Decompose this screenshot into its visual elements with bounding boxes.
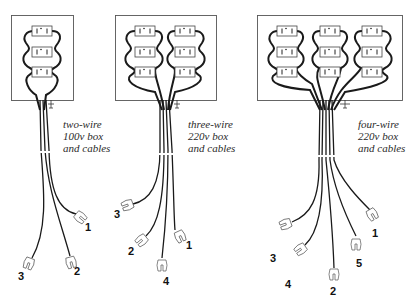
plug-icon [351,239,361,250]
two-wire-box [12,16,74,111]
caption-line: three-wire [188,118,235,130]
plug-icon [157,260,167,271]
cable-label: 1 [186,240,192,251]
four-wire-caption: four-wire 220v box and cables [358,118,405,154]
caption-line: and cables [63,142,110,154]
plug-icon [173,229,187,243]
caption-line: four-wire [358,118,405,130]
plug-icon [121,199,135,212]
cable-label: 4 [285,279,291,290]
caption-line: 100v box [63,130,110,142]
cable-label: 5 [356,258,362,269]
cable-label: 2 [128,246,134,257]
plug-icon [365,207,379,222]
two-wire-caption: two-wire 100v box and cables [63,118,110,154]
cable-label: 4 [163,276,169,287]
caption-line: and cables [358,142,405,154]
caption-line: 220v box [188,130,235,142]
cable-label: 3 [114,209,120,220]
three-wire-box [116,16,217,111]
plug-icon [22,257,35,271]
three-wire-caption: three-wire 220v box and cables [188,118,235,154]
cable-label: 1 [372,228,378,239]
caption-line: and cables [188,142,235,154]
four-wire-box [258,16,403,111]
cable-label: 3 [18,271,24,282]
cable-label: 2 [74,266,80,277]
plug-icon [279,218,293,231]
cable-label: 1 [85,222,91,233]
cable-label: 2 [330,286,336,297]
three-wire-cables [133,100,175,258]
cable-label: 3 [270,253,276,264]
plug-icon [329,269,339,280]
caption-line: 220v box [358,130,405,142]
caption-line: two-wire [63,118,110,130]
